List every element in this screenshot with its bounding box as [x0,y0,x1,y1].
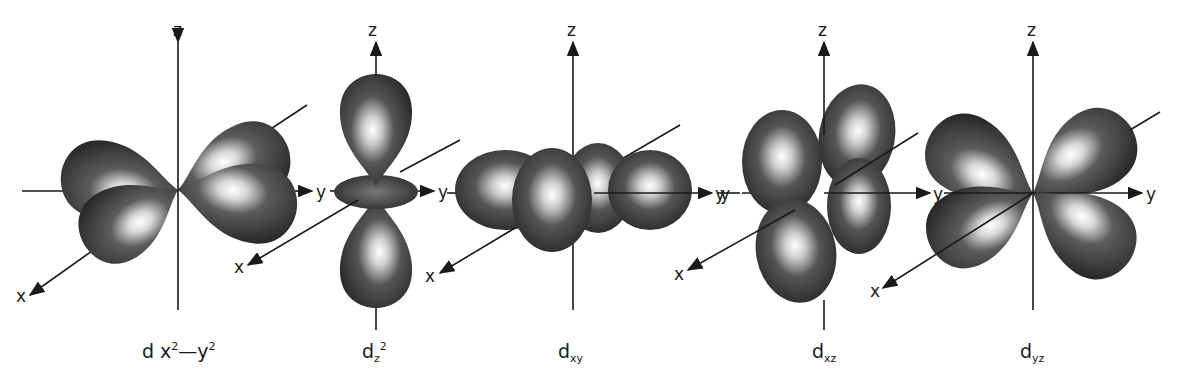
caption-dx2-y2: d x2—y2 [142,340,216,362]
caption-base: d [362,340,374,362]
orbital-dxz: z x y y [674,20,943,330]
caption-sup: 2 [209,340,216,353]
x-axis-label: x [425,266,435,286]
x-axis [440,228,515,273]
caption-dz2: dz2 [362,340,387,365]
y-axis-label: y [438,182,448,202]
d-orbitals-diagram: z x y z x y z x [0,0,1177,374]
caption-base: d [812,340,824,362]
y-axis-label: y [1146,184,1156,204]
x-axis-label: x [234,257,244,277]
caption-base: d [1020,340,1032,362]
x-axis-label: x [870,281,880,301]
caption-sup: 2 [380,340,387,353]
orbital-dyz: z x y [870,20,1160,310]
caption-base: d x [142,340,171,362]
caption-mid: —y [178,340,208,362]
orbital-figure: z x y z x y z x [0,0,1177,374]
caption-dxy: dxy [558,340,583,365]
caption-base: d [558,340,570,362]
z-axis-label: z [368,20,377,40]
x-axis-label: x [16,286,26,306]
caption-sub: xz [824,352,836,365]
x-axis-back [1130,112,1160,130]
caption-dyz: dyz [1020,340,1044,365]
caption-dxz: dxz [812,340,836,365]
y-axis-label: y [316,182,326,202]
orbital-dx2-y2: z x y [16,20,326,310]
y-axis-label: y [720,184,730,204]
z-axis-label: z [567,20,576,40]
caption-sub: z [374,352,380,365]
caption-sub: yz [1032,352,1044,365]
z-axis-label: z [173,20,182,40]
x-axis-label: x [674,264,684,284]
z-axis-label: z [1027,20,1036,40]
x-axis-back [400,140,460,172]
z-axis-label: z [818,20,827,40]
caption-sub: xy [570,352,583,365]
